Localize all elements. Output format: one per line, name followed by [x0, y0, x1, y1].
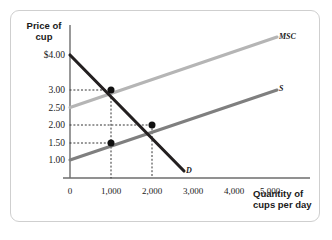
y-tick-label-1: 1.00 — [20, 155, 65, 166]
x-tick-label-0: 0 — [60, 186, 80, 196]
x-tick-label-3000: 3,000 — [172, 186, 214, 196]
x-axis-title-line2: cups per day — [253, 200, 325, 211]
x-tick-label-5000: 5,000 — [249, 186, 291, 196]
curve-label-msc: MSC — [279, 33, 296, 42]
curve-label-demand: D — [186, 167, 192, 176]
y-tick-label-1-5: 1.50 — [20, 138, 65, 149]
y-axis-title-line2: cup — [18, 32, 70, 43]
y-tick-label-2-5: 2.50 — [20, 103, 65, 114]
point-socially-optimal — [108, 87, 115, 94]
y-tick-label-2: 2.00 — [20, 120, 65, 131]
y-tick-label-3: 3.00 — [20, 85, 65, 96]
curve-label-supply: S — [279, 85, 283, 94]
curve-msc — [70, 37, 277, 108]
point-supply-at-optimal-quantity — [108, 140, 115, 147]
y-axis-title: Price of cup — [18, 21, 70, 42]
y-tick-label-4: $4.00 — [20, 50, 65, 61]
x-tick-label-2000: 2,000 — [131, 186, 173, 196]
x-tick-label-1000: 1,000 — [90, 186, 132, 196]
point-market-equilibrium — [149, 122, 156, 129]
